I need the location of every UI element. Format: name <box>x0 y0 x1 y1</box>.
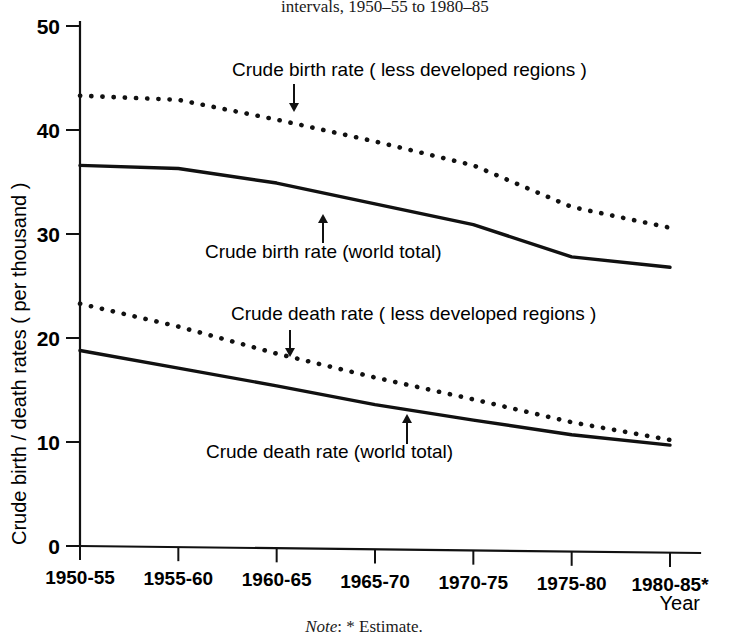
annotation-arrow-head <box>318 214 328 223</box>
series-annotation-label: Crude death rate ( less developed region… <box>231 303 596 324</box>
x-tick-label: 1960-65 <box>242 569 312 590</box>
y-axis-ticks: 01020304050 <box>37 15 80 558</box>
x-tick-label: 1955-60 <box>143 568 213 589</box>
annotation-layer: Crude birth rate ( less developed region… <box>205 59 596 462</box>
y-tick-label: 50 <box>37 15 60 38</box>
series-line: Crude birth rate ( less developed region… <box>80 96 670 228</box>
x-axis-ticks: 1950-551955-601960-651965-701970-751975-… <box>45 546 709 595</box>
figure-note: Note: * Estimate. <box>304 617 423 636</box>
chart-title: intervals, 1950–55 to 1980–85 <box>281 0 489 16</box>
series-annotation-label: Crude birth rate (world total) <box>205 241 442 262</box>
x-axis-title: Year <box>660 592 701 614</box>
x-tick-label: 1950-55 <box>45 567 115 588</box>
crude-birth-death-rate-chart: intervals, 1950–55 to 1980–85 0102030405… <box>0 0 729 638</box>
x-tick-label: 1970-75 <box>438 572 508 593</box>
x-tick-label: 1975-80 <box>537 573 607 594</box>
series-annotation-label: Crude death rate (world total) <box>206 441 453 462</box>
y-tick-label: 40 <box>37 119 60 142</box>
data-series-layer: Crude birth rate ( less developed region… <box>80 96 670 445</box>
y-tick-label: 20 <box>37 327 60 350</box>
y-tick-label: 10 <box>37 431 60 454</box>
annotation-arrow-head <box>402 414 412 423</box>
x-tick-label: 1965-70 <box>340 571 410 592</box>
y-axis-title: Crude birth / death rates ( per thousand… <box>8 183 30 545</box>
series-annotation-label: Crude birth rate ( less developed region… <box>232 59 587 80</box>
y-tick-label: 30 <box>37 223 60 246</box>
note-text-rest: : * Estimate. <box>337 617 422 636</box>
note-label-italic: Note <box>304 617 338 636</box>
x-axis-line <box>80 546 700 553</box>
y-tick-label: 0 <box>48 535 60 558</box>
annotation-arrow-head <box>289 103 299 112</box>
series-line: Crude death rate (world total) <box>80 350 670 445</box>
axes <box>80 22 700 553</box>
series-line: Crude death rate ( less developed region… <box>80 304 670 440</box>
